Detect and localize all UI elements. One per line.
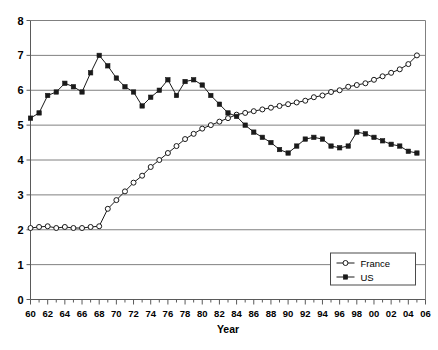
- data-point: [380, 74, 385, 79]
- series-line-us: [31, 55, 417, 153]
- data-point: [260, 135, 264, 139]
- data-point: [217, 102, 221, 106]
- data-point: [363, 81, 368, 86]
- data-point: [389, 142, 393, 146]
- data-point: [37, 111, 41, 115]
- data-point: [62, 224, 67, 229]
- data-point: [122, 189, 127, 194]
- data-point: [80, 90, 84, 94]
- x-tick-label: 96: [334, 308, 345, 319]
- x-tick-label: 60: [25, 308, 36, 319]
- data-point: [251, 109, 256, 114]
- y-tick-label: 8: [17, 15, 23, 27]
- data-point: [243, 123, 247, 127]
- x-tick-label: 62: [42, 308, 53, 319]
- data-point: [355, 130, 359, 134]
- data-point: [277, 103, 282, 108]
- data-point: [54, 90, 58, 94]
- x-tick-label: 70: [111, 308, 122, 319]
- data-point: [208, 123, 213, 128]
- legend-marker-us: [343, 275, 347, 279]
- data-point: [294, 144, 298, 148]
- y-tick-label: 7: [17, 49, 23, 61]
- data-point: [183, 137, 188, 142]
- data-point: [28, 226, 33, 231]
- series-line-france: [31, 55, 417, 228]
- line-chart: 0123456786062646668707274767880828486889…: [0, 0, 438, 350]
- data-point: [200, 83, 204, 87]
- data-point: [88, 71, 92, 75]
- data-point: [97, 53, 101, 57]
- data-point: [157, 158, 162, 163]
- data-point: [372, 135, 376, 139]
- data-point: [157, 88, 161, 92]
- legend-label: France: [361, 258, 391, 269]
- x-tick-label: 02: [386, 308, 397, 319]
- x-tick-label: 80: [197, 308, 208, 319]
- data-point: [226, 116, 231, 121]
- data-point: [166, 78, 170, 82]
- data-point: [320, 137, 324, 141]
- y-tick-label: 4: [17, 154, 24, 166]
- x-tick-label: 64: [60, 308, 71, 319]
- data-point: [97, 224, 102, 229]
- y-tick-label: 5: [17, 119, 23, 131]
- data-point: [131, 180, 136, 185]
- x-tick-label: 90: [283, 308, 294, 319]
- data-point: [260, 107, 265, 112]
- data-point: [45, 224, 50, 229]
- data-point: [363, 132, 367, 136]
- x-tick-label: 68: [94, 308, 105, 319]
- y-tick-label: 3: [17, 189, 23, 201]
- data-point: [277, 147, 281, 151]
- data-point: [337, 146, 341, 150]
- x-tick-label: 94: [317, 308, 328, 319]
- data-point: [329, 144, 333, 148]
- data-point: [191, 131, 196, 136]
- data-point: [123, 85, 127, 89]
- data-point: [80, 226, 85, 231]
- data-point: [200, 126, 205, 131]
- data-point: [114, 198, 119, 203]
- data-point: [114, 76, 118, 80]
- data-point: [63, 81, 67, 85]
- y-axis: 012345678: [17, 15, 30, 306]
- data-point: [105, 206, 110, 211]
- data-point: [148, 164, 153, 169]
- data-point: [88, 224, 93, 229]
- data-point: [183, 79, 187, 83]
- data-point: [329, 89, 334, 94]
- data-point: [320, 93, 325, 98]
- data-point: [337, 88, 342, 93]
- data-point: [294, 100, 299, 105]
- data-point: [106, 64, 110, 68]
- data-point: [131, 90, 135, 94]
- data-point: [380, 139, 384, 143]
- series-us: [28, 53, 419, 155]
- data-point: [312, 135, 316, 139]
- y-tick-label: 6: [17, 84, 23, 96]
- data-point: [54, 226, 59, 231]
- data-point: [174, 93, 178, 97]
- data-point: [286, 102, 291, 107]
- legend: FranceUS: [331, 253, 416, 285]
- data-point: [311, 95, 316, 100]
- data-point: [243, 110, 248, 115]
- x-tick-label: 00: [369, 308, 380, 319]
- data-point: [226, 111, 230, 115]
- series-france: [28, 53, 419, 231]
- x-axis: 6062646668707274767880828486889092949698…: [25, 300, 431, 319]
- x-tick-label: 98: [352, 308, 363, 319]
- data-point: [303, 98, 308, 103]
- x-tick-label: 06: [420, 308, 431, 319]
- data-point: [45, 93, 49, 97]
- data-point: [415, 151, 419, 155]
- data-point: [389, 70, 394, 75]
- data-point: [346, 144, 350, 148]
- data-point: [37, 224, 42, 229]
- x-axis-title: Year: [217, 323, 239, 335]
- chart-container: 0123456786062646668707274767880828486889…: [0, 0, 438, 350]
- data-point: [71, 85, 75, 89]
- x-tick-label: 76: [163, 308, 174, 319]
- data-point: [71, 226, 76, 231]
